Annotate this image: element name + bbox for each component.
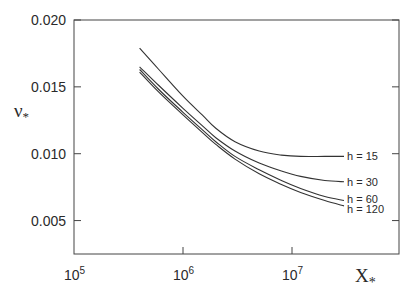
series-lines: [140, 48, 344, 206]
x-axis-title: X*: [355, 265, 376, 290]
series-line: [140, 67, 344, 182]
y-axis-title: ν*: [14, 100, 29, 124]
series-label: h = 15: [347, 150, 378, 162]
x-tick-label: 106: [173, 265, 195, 283]
series-line: [140, 72, 344, 206]
series-line: [140, 48, 344, 156]
y-tick-label: 0.005: [31, 213, 66, 229]
y-tick-label: 0.020: [31, 12, 66, 28]
y-tick-label: 0.015: [31, 79, 66, 95]
y-tick-label: 0.010: [31, 146, 66, 162]
chart: 0.0200.0150.0100.005 105106107 h = 15h =…: [0, 0, 408, 296]
series-label: h = 120: [347, 203, 384, 215]
series-label: h = 30: [347, 176, 378, 188]
x-tick-label: 105: [64, 265, 86, 283]
x-tick-label: 107: [282, 265, 304, 283]
x-axis-ticks: 105106107: [64, 247, 304, 283]
series-line: [140, 70, 344, 201]
y-axis-ticks: 0.0200.0150.0100.005: [31, 12, 399, 229]
series-labels: h = 15h = 30h = 60h = 120: [347, 150, 384, 214]
plot-frame: [74, 20, 399, 254]
